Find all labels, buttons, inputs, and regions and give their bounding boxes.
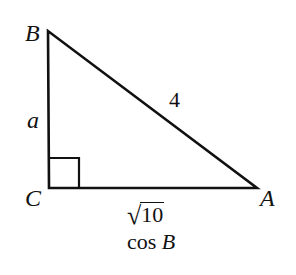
vertex-label-c: C [25, 186, 41, 210]
vertex-label-a: A [260, 186, 275, 210]
vertex-label-b: B [25, 21, 40, 45]
caption-function: cos [127, 229, 162, 254]
hypotenuse-label: 4 [169, 89, 180, 111]
square-root-symbol: √ [127, 203, 141, 229]
base-length-label: √10 [127, 202, 164, 229]
caption-cos-b: cos B [127, 231, 175, 253]
radicand: 10 [140, 202, 164, 226]
caption-variable: B [162, 229, 175, 254]
side-label-a: a [27, 108, 39, 132]
right-angle-marker [49, 158, 79, 188]
triangle-diagram: B a C A 4 √10 cos B [0, 0, 296, 275]
